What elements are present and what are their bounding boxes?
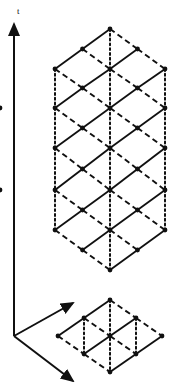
lattice-edge: [110, 128, 138, 148]
lattice-edge: [55, 69, 83, 88]
space-axis-2: [14, 336, 73, 381]
base-edge: [136, 318, 162, 336]
lattice-edge: [83, 230, 111, 250]
base-lattice-node: [134, 352, 139, 357]
lattice-edge: [83, 69, 111, 88]
base-lattice-group: [56, 298, 165, 375]
axes-group: [14, 24, 73, 381]
lattice-edge: [110, 169, 138, 190]
lattice-node: [108, 188, 113, 193]
lattice-node: [108, 146, 113, 151]
lattice-node: [135, 208, 140, 213]
lattice-edge: [55, 49, 83, 69]
upper-lattice-group: [0, 27, 192, 273]
figure-root: t: [0, 0, 192, 389]
lattice-edge: [55, 128, 83, 148]
lattice-node: [53, 106, 58, 111]
lattice-edge: [83, 49, 111, 69]
lattice-edge: [110, 29, 138, 49]
lattice-node: [163, 106, 168, 111]
base-lattice-node: [160, 334, 165, 339]
lattice-edge: [110, 190, 138, 210]
base-edge: [84, 300, 110, 318]
lattice-node: [80, 248, 85, 253]
lattice-edge: [110, 108, 138, 128]
base-lattice-node: [108, 334, 113, 339]
lattice-node: [163, 67, 168, 72]
base-edge: [84, 336, 110, 354]
lattice-node: [80, 126, 85, 131]
lattice-node: [80, 47, 85, 52]
lattice-edge: [83, 29, 111, 49]
lattice-edge: [138, 88, 166, 108]
lattice-edge: [110, 69, 138, 88]
lattice-edge: [110, 88, 138, 108]
lattice-node: [108, 67, 113, 72]
lattice-node: [80, 86, 85, 91]
base-edge: [110, 300, 136, 318]
lattice-edge: [55, 210, 83, 230]
base-lattice-node: [108, 370, 113, 375]
lattice-edge: [110, 210, 138, 230]
lattice-node: [135, 47, 140, 52]
base-edge: [58, 336, 84, 354]
lattice-node: [163, 228, 168, 233]
base-edge: [110, 336, 136, 354]
lattice-edge: [138, 49, 166, 69]
lattice-node: [80, 167, 85, 172]
lattice-node: [108, 106, 113, 111]
lattice-edge: [138, 108, 166, 128]
lattice-edge: [138, 230, 166, 250]
lattice-edge: [138, 148, 166, 169]
lattice-node: [135, 167, 140, 172]
lattice-node: [163, 188, 168, 193]
base-lattice-node: [108, 298, 113, 303]
lattice-node: [108, 228, 113, 233]
lattice-node: [53, 228, 58, 233]
base-edge: [58, 318, 84, 336]
lattice-node: [53, 188, 58, 193]
base-lattice-node: [56, 334, 61, 339]
lattice-node: [0, 106, 2, 111]
lattice-edge: [83, 169, 111, 190]
base-lattice-node: [82, 352, 87, 357]
lattice-edge: [138, 169, 166, 190]
lattice-edge: [83, 210, 111, 230]
lattice-edge: [110, 148, 138, 169]
lattice-edge: [138, 210, 166, 230]
lattice-edge: [83, 148, 111, 169]
lattice-edge: [55, 108, 83, 128]
lattice-edge: [83, 88, 111, 108]
base-edge: [84, 354, 110, 372]
base-edge: [136, 336, 162, 354]
base-edge: [84, 318, 110, 336]
base-edge: [110, 318, 136, 336]
lattice-node: [135, 248, 140, 253]
lattice-node: [0, 188, 2, 193]
lattice-node: [53, 67, 58, 72]
lattice-node: [135, 126, 140, 131]
lattice-edge: [110, 49, 138, 69]
lattice-node: [108, 268, 113, 273]
lattice-edge: [55, 169, 83, 190]
lattice-edge: [55, 88, 83, 108]
lattice-node: [53, 146, 58, 151]
lattice-edge: [83, 190, 111, 210]
lattice-edge: [55, 148, 83, 169]
lattice-node: [135, 86, 140, 91]
lattice-edge: [110, 250, 138, 270]
lattice-edge: [55, 230, 83, 250]
spacetime-lattice-figure: t: [0, 0, 192, 389]
lattice-edge: [55, 190, 83, 210]
lattice-node: [108, 27, 113, 32]
lattice-edge: [83, 128, 111, 148]
lattice-node: [80, 208, 85, 213]
lattice-edge: [138, 190, 166, 210]
lattice-edge: [110, 230, 138, 250]
base-lattice-node: [134, 316, 139, 321]
lattice-edge: [138, 128, 166, 148]
base-lattice-node: [82, 316, 87, 321]
lattice-edge: [83, 108, 111, 128]
lattice-edge: [138, 69, 166, 88]
base-edge: [110, 354, 136, 372]
